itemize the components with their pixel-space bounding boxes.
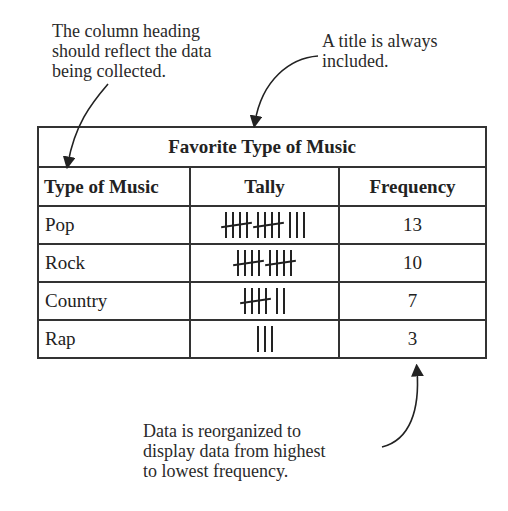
arrow-to-column-heading [68, 84, 108, 163]
annotation-arrows [0, 0, 508, 511]
arrow-to-frequency [382, 370, 418, 447]
arrow-to-title [255, 56, 318, 122]
